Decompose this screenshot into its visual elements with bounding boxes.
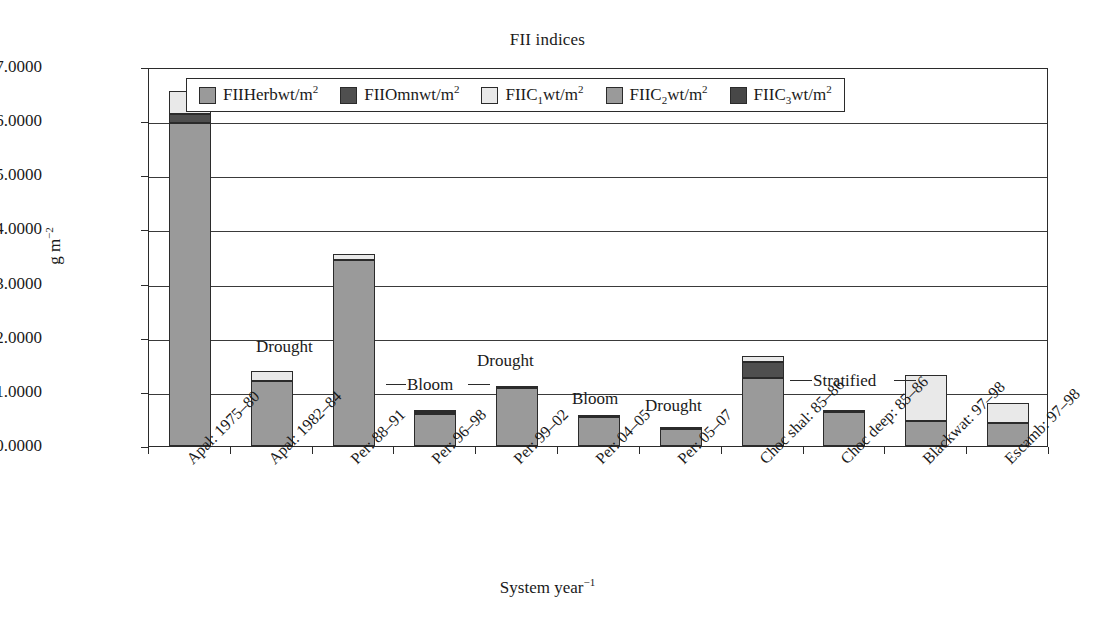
x-tick-mark [966,447,967,454]
bar-segment-fiic1wtm2[interactable] [987,403,1029,423]
legend-item-fii-omn[interactable]: FIIOmnwt/m2 [340,85,459,105]
legend-label: FIIC3wt/m2 [754,85,832,105]
bar-segment-fiic1wtm2[interactable] [578,415,620,417]
legend-swatch-icon [340,87,357,104]
y-tick-mark [141,393,148,394]
x-tick-mark [557,447,558,454]
annotation-leader-line [468,384,490,385]
chart-title: FII indices [0,30,1095,50]
bar-segment-fiic1wtm2[interactable] [333,254,375,259]
y-tick-mark [141,447,148,448]
bar-segment-fiic1wtm2[interactable] [742,356,784,362]
legend-item-fii-herb[interactable]: FIIHerbwt/m2 [199,85,318,105]
y-tick-mark [141,68,148,69]
x-tick-mark [475,447,476,454]
bar-segment-fiiomnwtm2[interactable] [169,114,211,123]
bar-stack[interactable] [169,91,211,446]
y-tick-label: 6.0000 [0,111,42,131]
y-tick-mark [141,339,148,340]
bar-segment-fiiomnwtm2[interactable] [742,362,784,378]
y-tick-label: 0.0000 [0,436,42,456]
bar-segment-fiiherbwtm2[interactable] [333,260,375,446]
bar-segment-fiic1wtm2[interactable] [251,371,293,381]
legend-swatch-icon [481,87,498,104]
annotation-stratified: Stratified [813,371,876,391]
legend-swatch-icon [199,87,216,104]
x-tick-mark [803,447,804,454]
x-tick-mark [230,447,231,454]
y-tick-label: 2.0000 [0,328,42,348]
legend-label: FIIHerbwt/m2 [223,85,318,105]
x-tick-mark [721,447,722,454]
bar-segment-fiic1wtm2[interactable] [660,427,702,429]
x-tick-mark [312,447,313,454]
bar-segment-fiic1wtm2[interactable] [823,410,865,412]
chart-figure: FII indices g m−2 0.00001.00002.00003.00… [0,0,1095,641]
x-axis-title: System year−1 [0,578,1095,598]
x-tick-mark [1048,447,1049,454]
annotation-bloom: Bloom [407,375,453,395]
y-tick-label: 5.0000 [0,165,42,185]
legend-swatch-icon [730,87,747,104]
y-tick-mark [141,230,148,231]
chart-legend: FIIHerbwt/m2FIIOmnwt/m2FIIC1wt/m2FIIC2wt… [186,78,845,112]
y-tick-mark [141,122,148,123]
bar-segment-fiic1wtm2[interactable] [414,410,456,412]
y-tick-label: 4.0000 [0,219,42,239]
y-tick-label: 1.0000 [0,382,42,402]
legend-label: FIIC1wt/m2 [505,85,583,105]
annotation-drought: Drought [477,351,534,371]
legend-label: FIIC2wt/m2 [630,85,708,105]
annotation-leader-line [790,380,812,381]
legend-item-fii-c3[interactable]: FIIC3wt/m2 [730,85,832,105]
annotation-leader-line [386,384,406,385]
bar-segment-fiiherbwtm2[interactable] [169,123,211,446]
legend-swatch-icon [606,87,623,104]
x-tick-mark [393,447,394,454]
annotation-drought: Drought [645,396,702,416]
legend-item-fii-c1[interactable]: FIIC1wt/m2 [481,85,583,105]
y-tick-mark [141,176,148,177]
annotation-drought: Drought [256,337,313,357]
x-tick-mark [884,447,885,454]
legend-item-fii-c2[interactable]: FIIC2wt/m2 [606,85,708,105]
y-axis-title: g m−2 [45,186,65,306]
legend-label: FIIOmnwt/m2 [364,85,459,105]
annotation-bloom: Bloom [572,389,618,409]
x-tick-mark [639,447,640,454]
bar-stack[interactable] [333,254,375,446]
annotation-leader-line [894,380,916,381]
y-tick-label: 3.0000 [0,274,42,294]
bar-segment-fiic1wtm2[interactable] [496,386,538,388]
y-tick-label: 7.0000 [0,57,42,77]
y-tick-mark [141,285,148,286]
x-tick-mark [148,447,149,454]
